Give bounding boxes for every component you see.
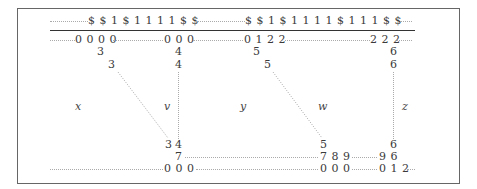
label-y: y [240,101,247,113]
row7-dotted-a [185,157,318,158]
label-x: x [75,101,82,113]
bottom-dotted-b [196,169,318,170]
bottom-a: 0 0 0 [164,163,195,175]
bottom-dotted-a [50,169,163,170]
bottom-dotted-c [352,169,377,170]
label-z: z [402,101,408,113]
label-w: w [318,101,328,113]
bottom-b: 0 0 0 [320,163,351,175]
bottom-c: 0 1 2 [379,163,410,175]
label-v: v [164,101,171,113]
x-bottom: 3 [165,139,173,151]
bottom-dotted-d [407,169,415,170]
row7-dotted-b [352,157,377,158]
diagonal-lines [0,0,477,189]
